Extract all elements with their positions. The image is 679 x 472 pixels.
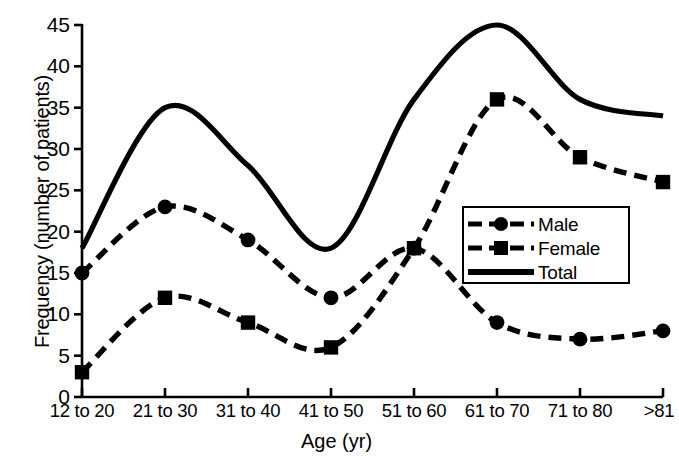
data-point-male-6 (573, 332, 588, 347)
legend-item-male: Male (464, 212, 628, 236)
data-point-female-3 (324, 340, 338, 354)
data-point-male-0 (75, 266, 90, 281)
figure-caption (6, 462, 671, 472)
data-point-female-7 (656, 175, 670, 189)
data-point-female-2 (241, 315, 255, 329)
data-point-female-0 (75, 365, 89, 379)
legend-swatch-male-dashed-circle (464, 213, 538, 235)
data-point-female-1 (158, 291, 172, 305)
data-point-male-7 (656, 323, 671, 338)
data-point-male-2 (241, 233, 256, 248)
data-point-female-4 (407, 241, 421, 255)
legend-swatch-total-solid (464, 261, 538, 283)
series-group (75, 25, 671, 379)
legend-swatch-female-dashed-square (464, 237, 538, 259)
data-point-female-6 (573, 150, 587, 164)
legend-label-total: Total (538, 263, 577, 282)
data-point-male-1 (158, 199, 173, 214)
data-point-male-5 (490, 315, 505, 330)
legend-item-total: Total (464, 260, 628, 284)
legend-item-female: Female (464, 236, 628, 260)
legend-label-female: Female (538, 239, 600, 258)
legend-label-male: Male (538, 215, 578, 234)
data-point-male-3 (324, 290, 339, 305)
chart-legend: Male Female Total (462, 206, 630, 284)
data-point-female-5 (490, 92, 504, 106)
